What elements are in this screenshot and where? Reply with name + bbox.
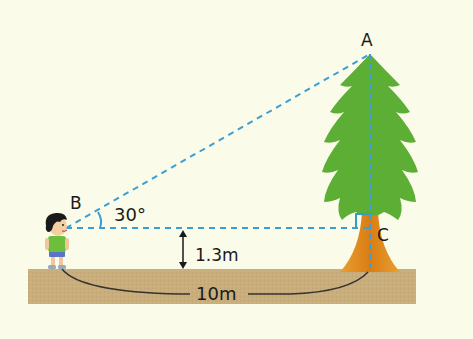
label-distance: 10m	[196, 283, 236, 304]
label-point-b: B	[70, 193, 82, 213]
label-point-c: C	[377, 225, 389, 245]
angle-arc	[98, 212, 101, 228]
label-angle: 30°	[114, 204, 146, 225]
boy-observer-icon	[45, 213, 69, 269]
eye-height-arrow	[179, 230, 187, 269]
label-point-a: A	[361, 30, 373, 50]
tree-trunk	[340, 212, 400, 272]
label-eye-height: 1.3m	[195, 245, 239, 265]
diagram-canvas: A B C 30° 1.3m 10m	[0, 0, 473, 339]
